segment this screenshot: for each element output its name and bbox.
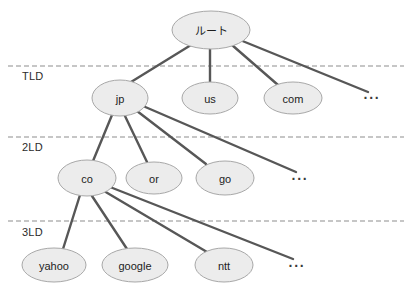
node-com-label: com: [283, 93, 304, 105]
diagram-canvas: TLD 2LD 3LD ルート: [0, 0, 412, 293]
ellipsis-tld-more: ···: [364, 90, 381, 106]
level-label-tld: TLD: [22, 70, 43, 82]
edge-jp-or: [125, 116, 147, 162]
edge-co-ntt: [104, 191, 207, 252]
level-label-2ld: 2LD: [22, 141, 43, 153]
node-yahoo-label: yahoo: [39, 260, 69, 272]
dns-hierarchy-diagram: TLD 2LD 3LD ルート: [0, 0, 412, 293]
node-us-label: us: [204, 93, 216, 105]
edge-co-google: [92, 196, 127, 249]
tree-edges: [63, 40, 368, 259]
node-co-label: co: [81, 173, 93, 185]
node-com[interactable]: com: [264, 82, 322, 114]
node-root-label: ルート: [195, 25, 228, 37]
edge-co-yahoo: [63, 195, 80, 249]
node-jp[interactable]: jp: [92, 80, 148, 116]
level-label-3ld: 3LD: [22, 226, 43, 238]
node-jp-label: jp: [115, 93, 125, 105]
ellipsis-markers: ··· ··· ···: [289, 90, 381, 274]
node-ntt-label: ntt: [218, 260, 230, 272]
node-ntt[interactable]: ntt: [195, 248, 253, 282]
node-co[interactable]: co: [58, 160, 116, 196]
node-google[interactable]: google: [102, 248, 168, 282]
tree-nodes: ルート jp us com co or: [22, 11, 322, 282]
node-go-label: go: [219, 173, 231, 185]
edge-jp-co: [93, 115, 112, 161]
ellipsis-3ld-more: ···: [289, 258, 306, 274]
node-us[interactable]: us: [182, 82, 238, 114]
node-go[interactable]: go: [196, 161, 254, 195]
edge-root-jp: [131, 45, 191, 82]
node-or[interactable]: or: [126, 162, 182, 194]
node-yahoo[interactable]: yahoo: [22, 248, 86, 282]
node-root[interactable]: ルート: [172, 11, 250, 49]
node-or-label: or: [149, 173, 159, 185]
ellipsis-2ld-more: ···: [292, 171, 309, 187]
level-labels: TLD 2LD 3LD: [22, 70, 43, 238]
edge-root-com: [232, 45, 278, 85]
node-google-label: google: [118, 260, 151, 272]
